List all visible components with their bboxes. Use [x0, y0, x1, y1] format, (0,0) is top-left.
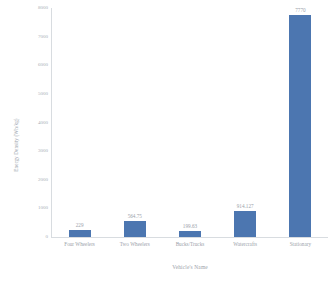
bar-slot: 914.127 [218, 8, 273, 237]
x-axis-category-label: Two Wheelers [107, 240, 162, 248]
y-axis-tick-labels: 010002000300040005000600070008000 [14, 8, 48, 237]
x-axis-title: Vehicle's Name [52, 264, 328, 270]
y-axis-tick-label: 7000 [14, 34, 48, 40]
x-axis-line [51, 237, 328, 238]
plot-area: 229564.75199.63914.1277770 [52, 8, 328, 237]
bar-chart: Energy Density (Wh/kg) 01000200030004000… [0, 0, 330, 292]
y-axis-tick-label: 1000 [14, 205, 48, 211]
x-axis-category-label: Four Wheelers [52, 240, 107, 248]
y-axis-tick-label: 6000 [14, 62, 48, 68]
bar-slot: 7770 [273, 8, 328, 237]
y-axis-tick-label: 5000 [14, 91, 48, 97]
bar-slot: 229 [52, 8, 107, 237]
bar[interactable] [124, 221, 146, 237]
bar[interactable] [179, 231, 201, 237]
y-axis-tick-label: 0 [14, 234, 48, 240]
bar-value-label: 199.63 [183, 223, 197, 229]
x-axis-category-label: Bucks/Trucks [162, 240, 217, 248]
bar[interactable] [234, 211, 256, 237]
x-axis-category-label: Watercrafts [218, 240, 273, 248]
y-axis-tick-label: 4000 [14, 120, 48, 126]
bar[interactable] [69, 230, 91, 237]
y-axis-tick-label: 2000 [14, 177, 48, 183]
y-axis-tick-label: 3000 [14, 148, 48, 154]
x-axis-category-labels: Four WheelersTwo WheelersBucks/TrucksWat… [52, 240, 328, 254]
bar-value-label: 564.75 [128, 213, 142, 219]
bar-slot: 199.63 [162, 8, 217, 237]
bar-slot: 564.75 [107, 8, 162, 237]
x-axis-category-label: Stationary [273, 240, 328, 248]
bar-value-label: 914.127 [237, 203, 254, 209]
bar-value-label: 7770 [295, 7, 305, 13]
bar[interactable] [289, 15, 311, 237]
bar-value-label: 229 [76, 222, 84, 228]
y-axis-tick-label: 8000 [14, 5, 48, 11]
